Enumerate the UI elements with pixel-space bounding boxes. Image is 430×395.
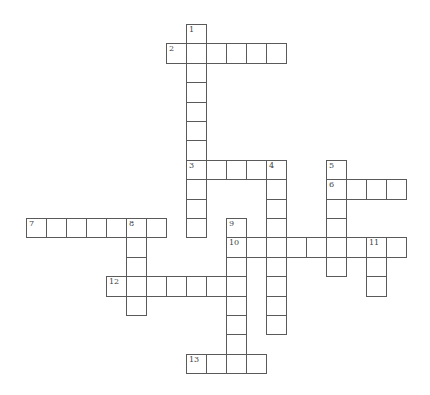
crossword-cell[interactable]: 4 (266, 160, 287, 180)
crossword-cell[interactable] (126, 276, 147, 296)
crossword-cell[interactable] (346, 179, 367, 199)
crossword-cell[interactable]: 11 (366, 237, 387, 257)
crossword-cell[interactable] (326, 199, 347, 219)
clue-number: 11 (369, 238, 379, 248)
crossword-cell[interactable] (186, 82, 207, 102)
crossword-cell[interactable] (226, 43, 247, 63)
clue-number: 9 (229, 219, 234, 229)
crossword-grid: 13245678910111213 (0, 0, 430, 395)
crossword-cell[interactable] (86, 218, 107, 238)
crossword-cell[interactable] (266, 315, 287, 335)
crossword-cell[interactable] (126, 296, 147, 316)
clue-number: 6 (329, 180, 334, 190)
crossword-cell[interactable] (186, 121, 207, 141)
crossword-cell[interactable] (306, 237, 327, 257)
crossword-cell[interactable] (206, 354, 227, 374)
crossword-cell[interactable]: 10 (226, 237, 247, 257)
crossword-cell[interactable] (366, 257, 387, 277)
crossword-cell[interactable] (266, 43, 287, 63)
crossword-cell[interactable] (66, 218, 87, 238)
crossword-cell[interactable] (246, 354, 267, 374)
crossword-cell[interactable] (286, 237, 307, 257)
crossword-cell[interactable] (226, 315, 247, 335)
crossword-cell[interactable] (266, 179, 287, 199)
crossword-cell[interactable] (106, 218, 127, 238)
clue-number: 10 (229, 238, 239, 248)
crossword-cell[interactable] (206, 276, 227, 296)
crossword-cell[interactable] (326, 218, 347, 238)
clue-number: 13 (189, 355, 199, 365)
crossword-cell[interactable] (326, 237, 347, 257)
crossword-cell[interactable] (166, 276, 187, 296)
crossword-cell[interactable] (206, 43, 227, 63)
crossword-cell[interactable] (186, 140, 207, 160)
crossword-cell[interactable] (246, 43, 267, 63)
crossword-cell[interactable]: 2 (166, 43, 187, 63)
crossword-cell[interactable] (186, 276, 207, 296)
crossword-cell[interactable]: 1 (186, 24, 207, 44)
clue-number: 8 (129, 219, 134, 229)
crossword-cell[interactable] (126, 257, 147, 277)
clue-number: 3 (189, 161, 194, 171)
crossword-cell[interactable] (266, 276, 287, 296)
crossword-cell[interactable]: 12 (106, 276, 127, 296)
crossword-cell[interactable] (186, 43, 207, 63)
crossword-cell[interactable]: 8 (126, 218, 147, 238)
crossword-cell[interactable] (226, 160, 247, 180)
crossword-cell[interactable] (266, 296, 287, 316)
crossword-cell[interactable] (186, 63, 207, 83)
crossword-cell[interactable] (266, 237, 287, 257)
crossword-cell[interactable] (246, 237, 267, 257)
crossword-cell[interactable]: 13 (186, 354, 207, 374)
clue-number: 5 (329, 161, 334, 171)
crossword-cell[interactable] (226, 354, 247, 374)
crossword-cell[interactable] (186, 102, 207, 122)
crossword-cell[interactable]: 5 (326, 160, 347, 180)
crossword-cell[interactable]: 3 (186, 160, 207, 180)
crossword-cell[interactable] (46, 218, 67, 238)
crossword-cell[interactable]: 7 (26, 218, 47, 238)
crossword-cell[interactable] (226, 276, 247, 296)
crossword-cell[interactable] (366, 276, 387, 296)
crossword-cell[interactable] (326, 257, 347, 277)
crossword-cell[interactable] (386, 237, 407, 257)
crossword-cell[interactable] (146, 276, 167, 296)
clue-number: 4 (269, 161, 274, 171)
crossword-cell[interactable] (266, 257, 287, 277)
crossword-cell[interactable] (206, 160, 227, 180)
clue-number: 1 (189, 25, 194, 35)
crossword-cell[interactable] (386, 179, 407, 199)
crossword-cell[interactable] (186, 199, 207, 219)
crossword-cell[interactable]: 6 (326, 179, 347, 199)
crossword-cell[interactable] (266, 199, 287, 219)
crossword-cell[interactable] (226, 334, 247, 354)
crossword-cell[interactable]: 9 (226, 218, 247, 238)
crossword-cell[interactable] (266, 218, 287, 238)
crossword-cell[interactable] (146, 218, 167, 238)
clue-number: 12 (109, 277, 119, 287)
crossword-cell[interactable] (186, 218, 207, 238)
crossword-cell[interactable] (186, 179, 207, 199)
crossword-cell[interactable] (346, 237, 367, 257)
clue-number: 7 (29, 219, 34, 229)
crossword-cell[interactable] (226, 257, 247, 277)
clue-number: 2 (169, 44, 174, 54)
crossword-cell[interactable] (246, 160, 267, 180)
crossword-cell[interactable] (126, 237, 147, 257)
crossword-cell[interactable] (366, 179, 387, 199)
crossword-cell[interactable] (226, 296, 247, 316)
